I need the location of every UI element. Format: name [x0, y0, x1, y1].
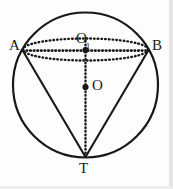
point-label-b: B: [152, 38, 162, 53]
point-label-o1: O1: [76, 31, 91, 49]
edge-a-t-line: [23, 51, 86, 157]
right-edge-strip: [169, 0, 173, 189]
point-o-dot: [82, 84, 88, 90]
point-label-o: O: [92, 78, 103, 93]
geometry-figure: A B O1 O T: [0, 0, 173, 189]
bottom-edge-strip: [0, 186, 173, 189]
point-label-t: T: [79, 161, 88, 176]
point-label-a: A: [9, 38, 20, 53]
point-label-o1-subscript: 1: [86, 41, 91, 51]
edge-b-t-line: [86, 51, 149, 157]
